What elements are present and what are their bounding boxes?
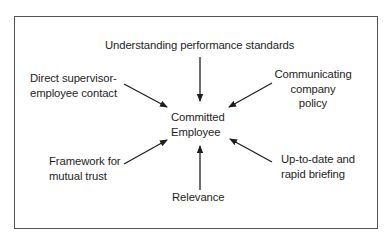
factor-relevance: Relevance <box>172 190 224 205</box>
center-line-2: Employee <box>171 125 225 140</box>
center-label-committed-employee: Committed Employee <box>171 110 225 139</box>
center-line-1: Committed <box>171 110 225 125</box>
arrow-lower-right <box>230 139 272 162</box>
arrow-upper-left <box>124 84 167 107</box>
factor-understanding-performance-standards: Understanding performance standards <box>105 38 294 53</box>
factor-framework-for-mutual-trust: Framework for mutual trust <box>49 154 121 183</box>
arrow-lower-left <box>124 140 167 164</box>
factor-up-to-date-rapid-briefing: Up-to-date and rapid briefing <box>281 152 355 181</box>
factor-direct-supervisor-contact: Direct supervisor- employee contact <box>30 71 117 100</box>
arrow-upper-right <box>229 83 272 107</box>
factor-communicating-company-policy: Communicating company policy <box>268 67 358 111</box>
